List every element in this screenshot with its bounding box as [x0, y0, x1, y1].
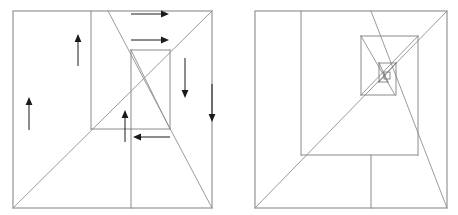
arrow-head-up-icon: [75, 34, 82, 42]
arrow-up-outer-left: [26, 97, 33, 130]
figure-root: [0, 0, 458, 215]
arrow-right-top: [131, 11, 169, 18]
arrow-head-up-icon: [26, 97, 33, 105]
arrow-right-inner-top: [131, 37, 169, 44]
left-panel: [13, 11, 215, 208]
arrow-head-left-icon: [133, 134, 141, 141]
arrow-up-inner-center: [122, 110, 129, 142]
right-diagonal-falling-outer: [371, 11, 447, 208]
left-diagonal-main-rising: [13, 11, 212, 208]
arrow-head-up-icon: [122, 110, 129, 118]
arrow-left-lower: [133, 134, 170, 141]
right-panel: [255, 11, 447, 208]
left-diagonal-inner-falling: [131, 50, 170, 129]
arrow-head-down-icon: [182, 90, 189, 98]
arrow-up-partition: [75, 34, 82, 66]
arrow-down-inner-right: [182, 58, 189, 98]
arrow-head-down-icon: [209, 114, 216, 122]
arrow-head-right-icon: [161, 11, 169, 18]
geometry-canvas: [0, 0, 458, 215]
arrow-down-outer-right: [209, 84, 216, 122]
arrow-head-right-icon: [161, 37, 169, 44]
